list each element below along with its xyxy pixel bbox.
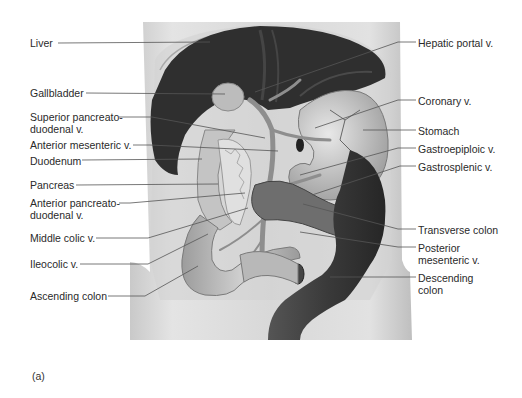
label-duodenum: Duodenum <box>30 155 81 167</box>
label-descending-colon: Descending colon <box>418 272 473 296</box>
label-line-2: duodenal v. <box>30 123 123 135</box>
label-line-1: Superior pancreato- <box>30 111 123 123</box>
label-middle-colic-v: Middle colic v. <box>30 232 95 244</box>
label-hepatic-portal-v: Hepatic portal v. <box>418 37 493 49</box>
label-ascending-colon: Ascending colon <box>30 290 107 302</box>
label-coronary-v: Coronary v. <box>418 95 472 107</box>
label-line-1: Posterior <box>418 242 480 254</box>
figure-caption: (a) <box>32 370 45 382</box>
gallbladder-organ <box>212 83 244 111</box>
label-posterior-mesenteric-v: Posterior mesenteric v. <box>418 242 480 266</box>
label-gastroepiploic-v: Gastroepiploic v. <box>418 143 495 155</box>
label-ileocolic-v: Ileocolic v. <box>30 258 78 270</box>
label-gallbladder: Gallbladder <box>30 87 84 99</box>
label-anterior-mesenteric-v: Anterior mesenteric v. <box>30 139 131 151</box>
label-anterior-pancreatoduodenal-v: Anterior pancreato- duodenal v. <box>30 197 120 221</box>
label-pancreas: Pancreas <box>30 179 74 191</box>
label-stomach: Stomach <box>418 125 459 137</box>
label-line-1: Anterior pancreato- <box>30 197 120 209</box>
label-superior-pancreatoduodenal-v: Superior pancreato- duodenal v. <box>30 111 123 135</box>
label-line-2: mesenteric v. <box>418 254 480 266</box>
label-transverse-colon: Transverse colon <box>418 224 498 236</box>
label-line-2: duodenal v. <box>30 209 120 221</box>
label-liver: Liver <box>30 37 53 49</box>
label-line-2: colon <box>418 284 473 296</box>
label-gastrosplenic-v: Gastrosplenic v. <box>418 161 493 173</box>
label-line-1: Descending <box>418 272 473 284</box>
